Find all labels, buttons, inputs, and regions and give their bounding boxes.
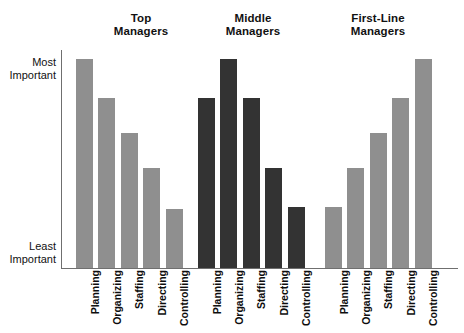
- group-header-line-1: Middle: [208, 12, 298, 25]
- group-header-line-1: First-Line: [330, 12, 426, 25]
- plot-area: [62, 50, 458, 268]
- bar: [166, 209, 183, 268]
- x-axis-label-text: Planning: [339, 270, 350, 314]
- group-header-line-2: Managers: [330, 25, 426, 38]
- bar: [98, 98, 115, 268]
- x-axis-label-text: Directing: [157, 270, 168, 316]
- x-axis-label: Organizing: [112, 270, 123, 325]
- x-axis-label-text: Staffing: [134, 270, 145, 309]
- y-axis-top-label: Most Important: [0, 56, 56, 82]
- x-axis-label-text: Directing: [406, 270, 417, 316]
- group-header-first-line-managers: First-Line Managers: [330, 12, 426, 38]
- x-axis-label: Staffing: [383, 270, 394, 309]
- group-header-top-managers: Top Managers: [96, 12, 186, 38]
- x-axis-label: Directing: [406, 270, 417, 316]
- x-axis-label-text: Controlling: [301, 270, 312, 326]
- x-axis-label: Planning: [339, 270, 350, 314]
- group-header-line-2: Managers: [208, 25, 298, 38]
- x-axis-label: Controlling: [428, 270, 439, 326]
- x-axis-label: Directing: [157, 270, 168, 316]
- x-axis-label-text: Staffing: [383, 270, 394, 309]
- bar: [76, 59, 93, 268]
- bar-chart: Top Managers Middle Managers First-Line …: [0, 0, 464, 333]
- bar: [220, 59, 237, 268]
- x-axis-label-text: Controlling: [428, 270, 439, 326]
- bar: [265, 168, 282, 268]
- x-axis-label-text: Organizing: [112, 270, 123, 325]
- x-axis-label-text: Controlling: [179, 270, 190, 326]
- y-axis-bottom-label: Least Important: [0, 240, 56, 266]
- y-axis-bottom-label-line-1: Least: [0, 240, 56, 253]
- x-axis-label: Organizing: [361, 270, 372, 325]
- bar: [370, 133, 387, 268]
- y-axis-top-label-line-1: Most: [0, 56, 56, 69]
- x-axis-label-text: Organizing: [361, 270, 372, 325]
- x-axis-label: Planning: [212, 270, 223, 314]
- bar: [121, 133, 138, 268]
- x-axis-label-text: Planning: [212, 270, 223, 314]
- x-axis-label-text: Planning: [90, 270, 101, 314]
- y-axis-bottom-label-line-2: Important: [0, 253, 56, 266]
- group-header-line-2: Managers: [96, 25, 186, 38]
- x-axis-label: Controlling: [179, 270, 190, 326]
- y-axis-top-label-line-2: Important: [0, 69, 56, 82]
- bar: [288, 207, 305, 268]
- x-axis-label: Planning: [90, 270, 101, 314]
- x-axis-label-text: Organizing: [234, 270, 245, 325]
- x-axis-line: [61, 268, 458, 269]
- bar: [143, 168, 160, 268]
- bar: [392, 98, 409, 268]
- x-axis-label: Staffing: [134, 270, 145, 309]
- x-axis-category-labels: PlanningOrganizingStaffingDirectingContr…: [62, 270, 458, 333]
- x-axis-label-text: Directing: [279, 270, 290, 316]
- group-header-line-1: Top: [96, 12, 186, 25]
- x-axis-label: Organizing: [234, 270, 245, 325]
- bar: [243, 98, 260, 268]
- x-axis-label: Directing: [279, 270, 290, 316]
- bar: [325, 207, 342, 268]
- x-axis-label: Staffing: [256, 270, 267, 309]
- bar: [198, 98, 215, 268]
- bar: [415, 59, 432, 268]
- group-header-middle-managers: Middle Managers: [208, 12, 298, 38]
- x-axis-label-text: Staffing: [256, 270, 267, 309]
- x-axis-label: Controlling: [301, 270, 312, 326]
- bar: [347, 168, 364, 268]
